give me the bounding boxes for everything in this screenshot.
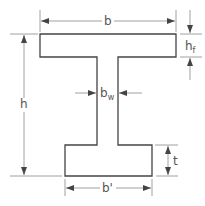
label-b: b: [104, 14, 112, 28]
i-beam-diagram: b h hf bw t b': [0, 0, 205, 206]
label-b-prime: b': [102, 181, 113, 195]
label-bw: bw: [100, 86, 115, 102]
label-t: t: [173, 154, 178, 168]
label-h: h: [20, 97, 28, 111]
dimension-h: [10, 34, 62, 176]
label-hf: hf: [185, 39, 196, 55]
i-beam-outline: [40, 34, 176, 176]
